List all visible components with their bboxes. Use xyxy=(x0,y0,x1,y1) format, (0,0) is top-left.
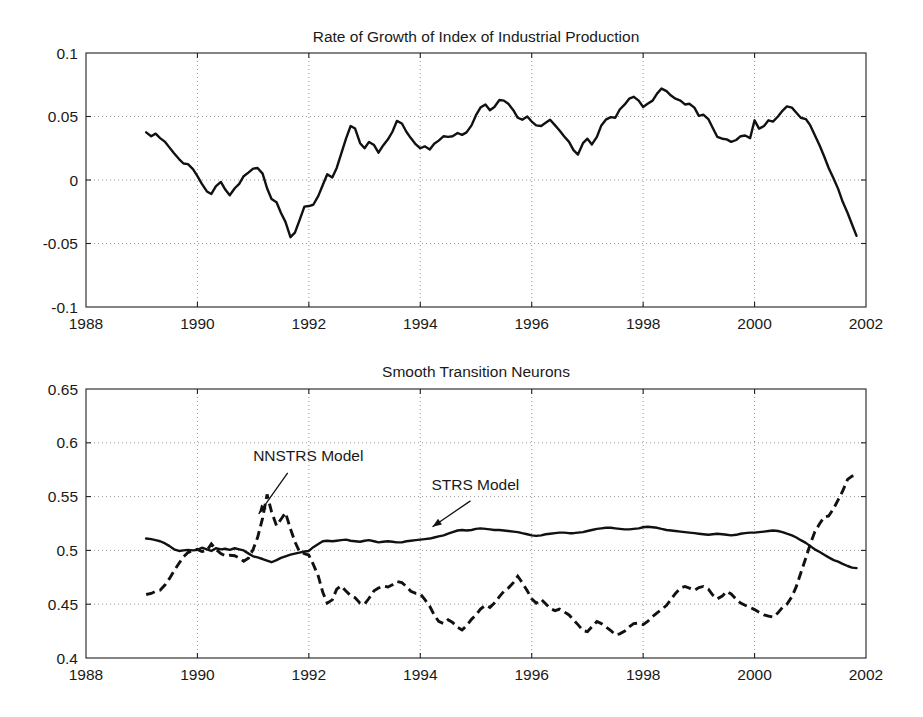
x-tick-label: 1988 xyxy=(69,666,103,683)
y-tick-label: 0.6 xyxy=(56,434,78,451)
x-tick-label: 1992 xyxy=(292,315,326,332)
y-tick-label: 0.4 xyxy=(56,650,78,667)
chart-title: Smooth Transition Neurons xyxy=(382,363,570,380)
annotation-label: NNSTRS Model xyxy=(253,447,363,464)
x-tick-label: 1998 xyxy=(626,666,660,683)
x-tick-label: 1988 xyxy=(69,315,103,332)
x-tick-label: 1996 xyxy=(514,666,548,683)
x-tick-label: 1996 xyxy=(514,315,548,332)
x-tick-label: 1994 xyxy=(403,666,438,683)
y-tick-label: 0.1 xyxy=(56,45,78,62)
x-tick-label: 1992 xyxy=(292,666,326,683)
x-tick-label: 2000 xyxy=(737,315,772,332)
y-tick-label: -0.05 xyxy=(43,235,78,252)
y-tick-label: 0.5 xyxy=(56,542,78,559)
figure-container: Rate of Growth of Index of Industrial Pr… xyxy=(0,0,923,717)
y-tick-label: 0 xyxy=(69,172,78,189)
x-tick-label: 2002 xyxy=(849,315,883,332)
y-tick-label: 0.55 xyxy=(48,488,78,505)
x-tick-label: 2002 xyxy=(849,666,883,683)
chart-panel-smooth-transition-neurons: Smooth Transition Neurons198819901992199… xyxy=(0,355,923,717)
annotation-arrowhead xyxy=(433,519,442,527)
plot-frame xyxy=(86,389,866,658)
y-tick-label: 0.45 xyxy=(48,596,78,613)
rate-of-growth-chart: Rate of Growth of Index of Industrial Pr… xyxy=(0,0,923,350)
y-tick-label: 0.65 xyxy=(48,381,78,398)
y-tick-label: 0.05 xyxy=(48,108,78,125)
annotation-label: STRS Model xyxy=(431,476,519,493)
chart-panel-rate-of-growth: Rate of Growth of Index of Industrial Pr… xyxy=(0,0,923,350)
series-line-rate-of-growth xyxy=(146,89,856,238)
x-tick-label: 1990 xyxy=(180,666,215,683)
x-tick-label: 1990 xyxy=(180,315,215,332)
x-tick-label: 1994 xyxy=(403,315,438,332)
y-tick-label: -0.1 xyxy=(51,299,78,316)
x-tick-label: 1998 xyxy=(626,315,660,332)
smooth-transition-neurons-chart: Smooth Transition Neurons198819901992199… xyxy=(0,355,923,717)
x-tick-label: 2000 xyxy=(737,666,772,683)
chart-title: Rate of Growth of Index of Industrial Pr… xyxy=(313,28,640,45)
